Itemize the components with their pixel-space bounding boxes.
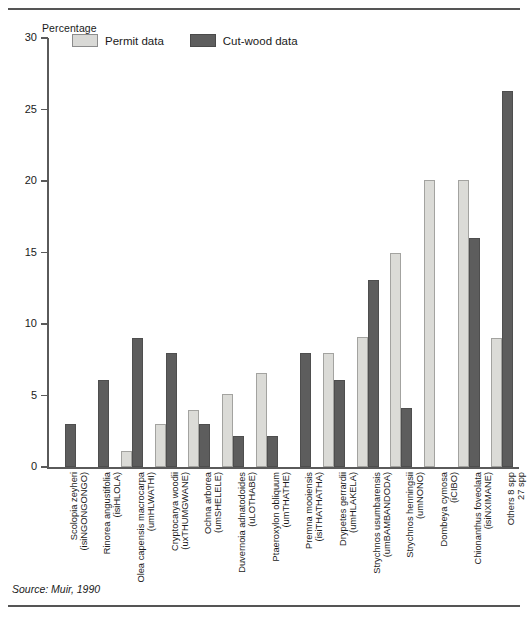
y-tick-25 — [41, 109, 48, 111]
x-label-vernacular: (umNONO) — [416, 472, 426, 558]
x-label-species: Drypetes gerrardii — [338, 472, 348, 546]
x-label-vernacular: 27 spp — [517, 472, 527, 525]
x-axis-label: Premna mooiensis(isiTHATHATHA) — [304, 472, 325, 549]
bar-permit[interactable] — [222, 394, 233, 467]
bar-group[interactable] — [48, 38, 82, 467]
bar-group[interactable] — [317, 38, 351, 467]
x-label-vernacular: (umHLWATHI) — [147, 472, 157, 583]
x-label-species: Scolopia zeyheri — [69, 472, 79, 551]
x-label-vernacular: (umHLAKELA) — [348, 472, 358, 546]
source-note: Source: Muir, 1990 — [12, 583, 100, 595]
y-tick-30 — [41, 37, 48, 39]
bar-group[interactable] — [485, 38, 519, 467]
bar-cut[interactable] — [233, 436, 244, 467]
y-tick-label-20: 20 — [10, 174, 37, 186]
bar-permit[interactable] — [424, 180, 435, 467]
bar-group[interactable] — [351, 38, 385, 467]
bar-cut[interactable] — [199, 424, 210, 467]
x-label-species: Dombeya cymosa — [439, 472, 449, 546]
x-axis-label: Olea capensis macrocarpa(umHLWATHI) — [136, 472, 157, 583]
y-tick-label-25: 25 — [10, 103, 37, 115]
bar-cut[interactable] — [300, 353, 311, 467]
x-axis-label: Dombeya cymosa(iCIBO) — [439, 472, 460, 546]
bar-cut[interactable] — [98, 380, 109, 467]
bar-permit[interactable] — [121, 451, 132, 467]
x-label-species: Others 8 spp — [506, 472, 516, 525]
bar-permit[interactable] — [188, 410, 199, 467]
x-label-species: Olea capensis macrocarpa — [136, 472, 146, 583]
x-label-species: Premna mooiensis — [304, 472, 314, 549]
x-axis-labels: Scolopia zeyheri(isiNGONGONGO)Rinorea an… — [48, 470, 519, 580]
bar-cut[interactable] — [334, 380, 345, 467]
x-label-species: Ptaeroxylon obliquum — [271, 472, 281, 561]
x-label-species: Chionanthus foveolata — [473, 472, 483, 565]
x-label-vernacular: (uLOTHABE) — [247, 472, 257, 573]
bar-group[interactable] — [115, 38, 149, 467]
x-axis-label: Drypetes gerrardii(umHLAKELA) — [338, 472, 359, 546]
bar-permit[interactable] — [155, 424, 166, 467]
x-label-species: Strychnos usumbarensis — [372, 472, 382, 574]
bar-permit[interactable] — [491, 338, 502, 467]
bar-group[interactable] — [149, 38, 183, 467]
y-tick-15 — [41, 252, 48, 254]
x-label-species: Strychnos henningsii — [405, 472, 415, 558]
x-label-species: Duvernoia adnatodoides — [237, 472, 247, 573]
x-label-species: Cryptocarya woodii — [170, 472, 180, 551]
figure-container: Percentage 051015202530 Permit data Cut-… — [0, 0, 528, 617]
x-label-vernacular: (iCIBO) — [449, 472, 459, 546]
bar-permit[interactable] — [256, 373, 267, 467]
x-axis-label: Cryptocarya woodii(uxTHUMGWANE) — [170, 472, 191, 551]
y-tick-label-0: 0 — [10, 460, 37, 472]
x-axis-label: Rinorea angustifolia(isiHLOLA) — [102, 472, 123, 554]
bar-cut[interactable] — [401, 408, 412, 467]
bar-permit[interactable] — [323, 353, 334, 467]
bar-group[interactable] — [452, 38, 486, 467]
x-label-vernacular: (isiNXIMANE) — [483, 472, 493, 565]
bar-cut[interactable] — [469, 238, 480, 467]
bar-group[interactable] — [384, 38, 418, 467]
x-axis-label: Strychnos henningsii(umNONO) — [405, 472, 426, 558]
bar-permit[interactable] — [357, 337, 368, 467]
x-label-vernacular: (umSHELELE) — [214, 472, 224, 534]
bar-group[interactable] — [284, 38, 318, 467]
bar-permit[interactable] — [458, 180, 469, 467]
x-label-species: Rinorea angustifolia — [102, 472, 112, 554]
y-tick-label-5: 5 — [10, 389, 37, 401]
y-axis-title: Percentage — [42, 22, 97, 34]
x-label-vernacular: (isiHLOLA) — [113, 472, 123, 554]
x-label-vernacular: (isiNGONGONGO) — [79, 472, 89, 551]
x-label-vernacular: (uxTHUMGWANE) — [180, 472, 190, 551]
x-axis-line — [47, 467, 519, 469]
bar-group[interactable] — [82, 38, 116, 467]
x-axis-label: Ochna arborea(umSHELELE) — [203, 472, 224, 534]
x-axis-label: Ptaeroxylon obliquum(umTHATHE) — [271, 472, 292, 561]
y-tick-5 — [41, 395, 48, 397]
x-axis-label: Others 8 spp27 spp — [506, 472, 527, 525]
x-axis-label: Duvernoia adnatodoides(uLOTHABE) — [237, 472, 258, 573]
y-tick-label-15: 15 — [10, 246, 37, 258]
x-axis-label: Chionanthus foveolata(isiNXIMANE) — [473, 472, 494, 565]
bar-cut[interactable] — [368, 280, 379, 467]
bar-cut[interactable] — [65, 424, 76, 467]
y-tick-0 — [41, 466, 48, 468]
bar-cut[interactable] — [267, 436, 278, 467]
bar-group[interactable] — [418, 38, 452, 467]
x-axis-label: Strychnos usumbarensis(umBAMBANDODA) — [372, 472, 393, 574]
bar-cut[interactable] — [132, 338, 143, 467]
x-label-vernacular: (umBAMBANDODA) — [382, 472, 392, 574]
plot-area: Percentage 051015202530 Permit data Cut-… — [0, 0, 528, 480]
bar-group[interactable] — [183, 38, 217, 467]
x-axis-label: Scolopia zeyheri(isiNGONGONGO) — [69, 472, 90, 551]
bar-cut[interactable] — [166, 353, 177, 467]
bar-group[interactable] — [250, 38, 284, 467]
y-tick-20 — [41, 180, 48, 182]
bar-group[interactable] — [216, 38, 250, 467]
bar-cut[interactable] — [502, 91, 513, 467]
y-tick-label-10: 10 — [10, 317, 37, 329]
x-label-vernacular: (isiTHATHATHA) — [315, 472, 325, 549]
bar-permit[interactable] — [390, 253, 401, 468]
y-tick-10 — [41, 323, 48, 325]
figure-bottom-rule — [8, 605, 520, 607]
x-label-vernacular: (umTHATHE) — [281, 472, 291, 561]
bar-groups — [48, 38, 519, 467]
